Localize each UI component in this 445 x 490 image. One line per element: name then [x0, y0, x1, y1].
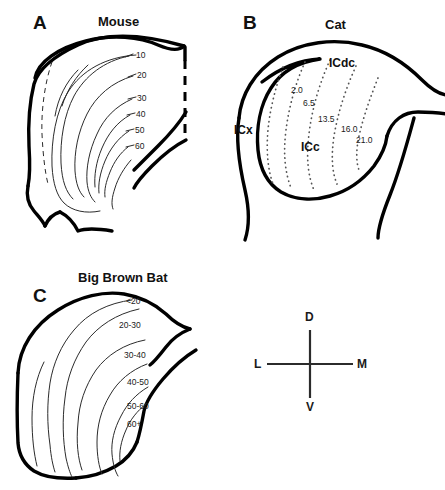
- orientation-compass: [0, 0, 445, 490]
- figure-root: A Mouse 10 20 30 40 50 60: [0, 0, 445, 490]
- compass-label-dorsal: D: [305, 310, 314, 324]
- compass-label-lateral: L: [254, 357, 261, 371]
- compass-label-ventral: V: [306, 400, 314, 414]
- compass-label-medial: M: [357, 357, 367, 371]
